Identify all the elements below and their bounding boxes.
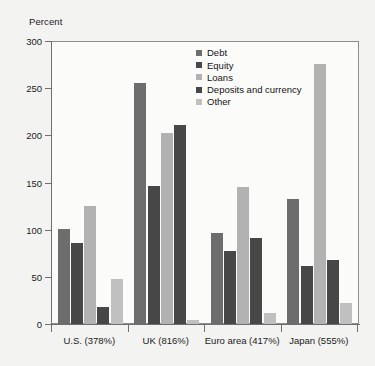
legend-swatch-icon <box>196 87 202 93</box>
legend-item-label: Loans <box>207 73 233 83</box>
legend-swatch-icon <box>196 62 202 68</box>
y-axis-tick <box>45 41 51 42</box>
bar <box>287 199 299 324</box>
legend-swatch-icon <box>196 50 202 56</box>
legend-item-label: Equity <box>207 61 233 71</box>
legend-item: Other <box>196 96 326 108</box>
legend-item: Deposits and currency <box>196 84 326 96</box>
x-axis-category-label: UK (816%) <box>143 335 189 346</box>
chart-legend: DebtEquityLoansDeposits and currencyOthe… <box>196 47 326 108</box>
legend-swatch-icon <box>196 74 202 80</box>
legend-swatch-icon <box>196 99 202 105</box>
bar <box>211 233 223 324</box>
y-axis-tick-label: 0 <box>37 319 42 330</box>
y-axis-tick-label: 200 <box>26 130 42 141</box>
legend-item: Equity <box>196 59 326 71</box>
y-axis-tick-label: 150 <box>26 177 42 188</box>
bar <box>97 307 109 324</box>
chart-figure: Percent 050100150200250300 U.S. (378%)UK… <box>0 0 375 366</box>
bar <box>340 303 352 324</box>
y-axis-tick-label: 50 <box>31 271 42 282</box>
x-axis-tick <box>281 325 282 332</box>
x-axis-line <box>51 324 360 325</box>
y-axis-tick <box>45 277 51 278</box>
y-axis-tick <box>45 88 51 89</box>
x-axis-tick <box>51 325 52 332</box>
bar <box>264 313 276 324</box>
x-axis-tick <box>357 325 358 332</box>
bar <box>187 320 199 324</box>
x-axis-category-label: Japan (555%) <box>289 335 348 346</box>
x-axis-category-label: Euro area (417%) <box>205 335 280 346</box>
bar <box>237 187 249 324</box>
legend-item-label: Deposits and currency <box>207 85 302 95</box>
y-axis-tick <box>45 135 51 136</box>
y-axis-tick-label: 250 <box>26 83 42 94</box>
bar <box>161 133 173 324</box>
y-axis-title: Percent <box>29 16 62 27</box>
legend-item: Loans <box>196 71 326 83</box>
bar <box>111 279 123 324</box>
bar <box>58 229 70 324</box>
bar <box>134 83 146 324</box>
x-axis-tick <box>128 325 129 332</box>
y-axis-tick <box>45 183 51 184</box>
legend-item-label: Debt <box>207 48 227 58</box>
y-axis-tick <box>45 230 51 231</box>
legend-item-label: Other <box>207 97 231 107</box>
y-axis-tick-label: 300 <box>26 36 42 47</box>
bar <box>250 238 262 324</box>
y-axis-tick-label: 100 <box>26 224 42 235</box>
legend-item: Debt <box>196 47 326 59</box>
x-axis-category-label: U.S. (378%) <box>63 335 115 346</box>
bar <box>174 125 186 324</box>
x-axis-tick <box>204 325 205 332</box>
bar <box>224 251 236 324</box>
bar <box>71 243 83 324</box>
bar <box>148 186 160 324</box>
bar <box>327 260 339 324</box>
bar <box>301 266 313 324</box>
bar <box>84 206 96 324</box>
